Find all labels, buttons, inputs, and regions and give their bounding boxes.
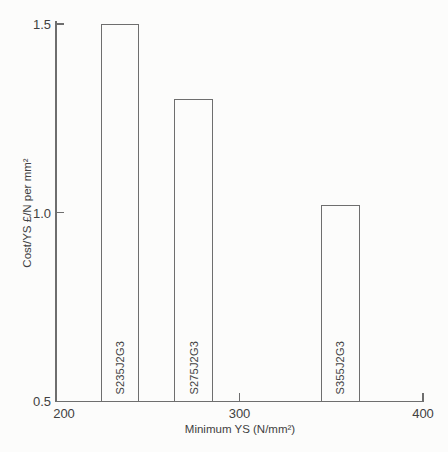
x-tick-mark (422, 393, 424, 401)
y-tick-label: 1.0 (33, 205, 51, 220)
x-tick-label: 200 (53, 406, 75, 421)
y-axis-label: Cost/YS £/N per mm² (21, 158, 33, 267)
bar-label: S355J2G3 (334, 341, 346, 395)
x-tick-label: 400 (412, 406, 434, 421)
x-tick-label: 300 (229, 406, 251, 421)
y-tick-label: 0.5 (33, 394, 51, 409)
x-axis-label: Minimum YS (N/mm²) (185, 423, 295, 435)
bar-chart-figure: 0.51.01.5200300400 S235J2G3S275J2G3S355J… (0, 0, 448, 452)
bar-s275j2g3: S275J2G3 (174, 99, 213, 401)
y-tick-label: 1.5 (33, 17, 51, 32)
bar-s355j2g3: S355J2G3 (321, 205, 360, 401)
x-tick-mark (239, 393, 241, 401)
bar-s235j2g3: S235J2G3 (101, 24, 140, 401)
y-tick-mark (56, 212, 64, 214)
bar-label: S235J2G3 (114, 341, 126, 395)
y-tick-mark (56, 23, 64, 25)
bar-label: S275J2G3 (188, 341, 200, 395)
